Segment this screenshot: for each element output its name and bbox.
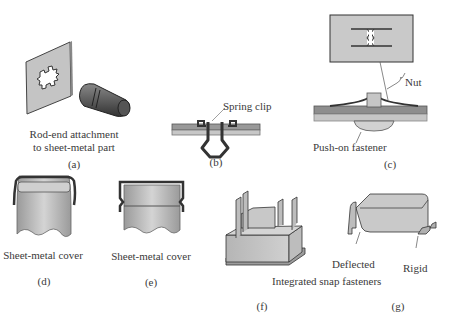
panel-d-caption: Sheet-metal cover <box>0 249 86 262</box>
panel-a-tag: (a) <box>14 158 134 171</box>
panel-g-callout-deflected: Deflected <box>332 258 375 271</box>
panel-b-tag: (b) <box>196 156 236 169</box>
panel-b-spring-clip <box>172 108 260 157</box>
panel-g-tag: (g) <box>378 300 418 313</box>
panel-a-rod <box>80 84 131 117</box>
panel-e-tag: (e) <box>131 276 171 289</box>
panel-b-callout-spring-clip: Spring clip <box>223 100 272 113</box>
panel-d-cover <box>14 176 75 237</box>
panel-c-tag: (c) <box>370 158 410 171</box>
panel-d-tag: (d) <box>24 275 64 288</box>
panel-c-caption: Push-on fastener <box>313 141 387 154</box>
panel-f-snap-box <box>226 191 305 265</box>
panel-f-tag: (f) <box>242 300 282 313</box>
panel-c-nut-top-view <box>330 15 413 62</box>
panel-a-caption-line2: to sheet-metal part <box>14 141 134 154</box>
panel-e-cover <box>120 182 183 233</box>
panel-c-nut-section <box>314 62 427 143</box>
shared-caption-integrated-snap-fasteners: Integrated snap fasteners <box>272 275 381 288</box>
panel-e-caption: Sheet-metal cover <box>108 250 194 263</box>
panel-g-callout-rigid: Rigid <box>403 262 427 275</box>
panel-a-plate <box>26 41 73 114</box>
panel-g-snap-cover <box>348 194 436 248</box>
panel-c-callout-nut: Nut <box>405 76 422 89</box>
panel-a-caption-line1: Rod-end attachment <box>14 128 134 141</box>
